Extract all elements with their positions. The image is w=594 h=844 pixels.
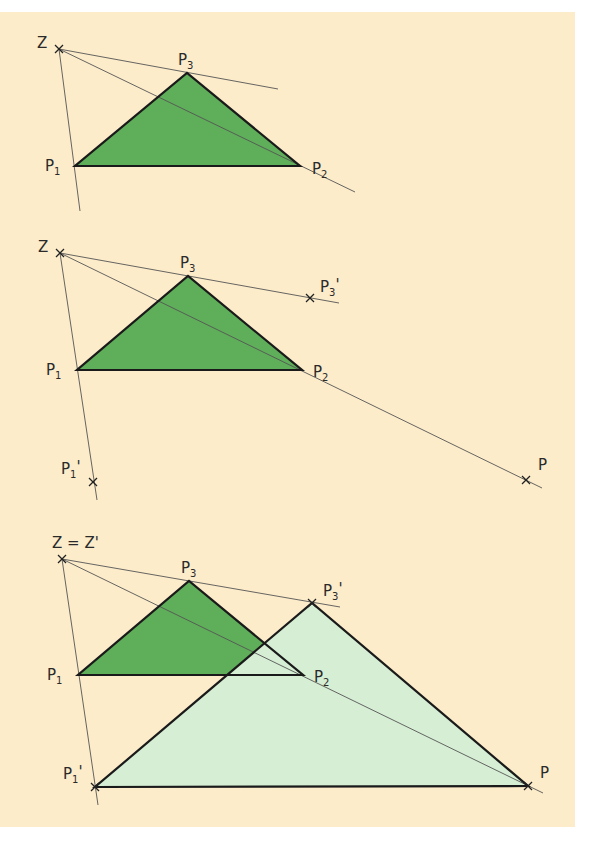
label-p: P — [538, 456, 547, 474]
label-z-equals-z-prime: Z = Z' — [52, 534, 99, 552]
label-p1-prime: P1' — [61, 458, 81, 480]
label-z: Z — [38, 238, 48, 256]
step1-diagram: Z P3 P1 P2 — [37, 34, 355, 211]
label-p3: P3 — [178, 51, 193, 71]
label-p1: P1 — [46, 361, 61, 381]
step3-diagram: Z = Z' P3 P3' P1 P2 P1' P — [47, 534, 549, 805]
label-p3: P3 — [181, 559, 196, 579]
p-marker-icon — [522, 476, 530, 484]
central-dilation-figure: Z P3 P1 P2 Z P3 P3' P1 P2 P1' P — [0, 0, 594, 844]
label-p3-prime: P3' — [320, 276, 340, 298]
ray-z-p1 — [59, 49, 80, 211]
p1-prime-marker-icon — [89, 478, 97, 486]
label-p: P — [540, 764, 549, 782]
label-p3-prime: P3' — [323, 580, 343, 602]
ray-z-p2 — [59, 49, 355, 192]
ray-z-p3 — [59, 49, 278, 89]
label-p2: P2 — [312, 160, 327, 180]
label-p1-prime: P1' — [63, 763, 83, 785]
label-p1: P1 — [47, 666, 62, 686]
label-p1: P1 — [45, 157, 60, 177]
label-p2: P2 — [313, 363, 328, 383]
step2-diagram: Z P3 P3' P1 P2 P1' P — [38, 238, 547, 500]
label-p3: P3 — [180, 254, 195, 274]
label-z: Z — [37, 34, 47, 52]
